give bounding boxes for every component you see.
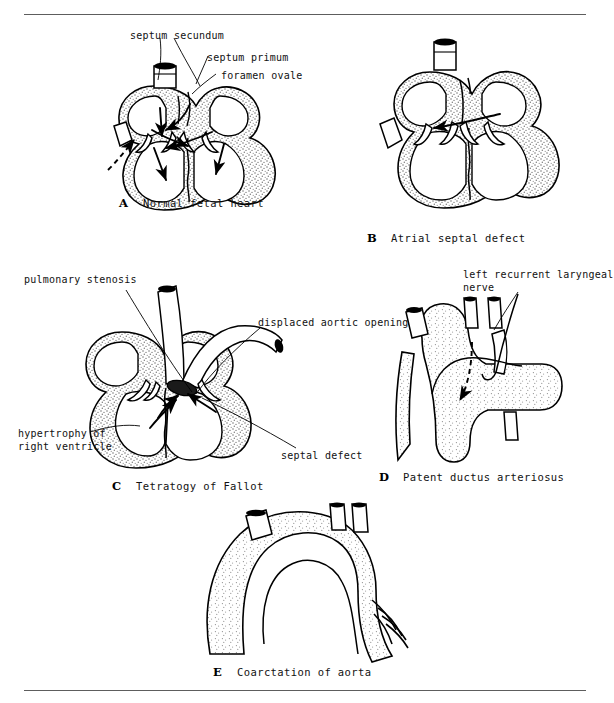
- label-hypertrophy-right-ventricle: hypertrophy of right ventricle: [18, 428, 112, 453]
- label-septum-primum: septum primum: [207, 52, 289, 65]
- label-septal-defect: septal defect: [281, 450, 363, 463]
- caption-a-title: Normal fetal heart: [143, 197, 264, 209]
- heart-diagram-b: [372, 32, 562, 212]
- caption-c-letter: C: [112, 479, 136, 493]
- caption-e-letter: E: [213, 665, 237, 679]
- caption-e-title: Coarctation of aorta: [237, 666, 371, 678]
- label-foramen-ovale: foramen ovale: [221, 70, 303, 83]
- caption-b-letter: B: [367, 231, 391, 245]
- caption-d: D Patent ductus arteriosus: [379, 470, 564, 484]
- aorta-diagram-e: [186, 504, 446, 664]
- label-pulmonary-stenosis: pulmonary stenosis: [24, 274, 137, 287]
- caption-a: A Normal fetal heart: [119, 196, 264, 210]
- label-septum-secundum: septum secundum: [130, 30, 224, 43]
- caption-c-title: Tetratogy of Fallot: [136, 480, 264, 492]
- caption-b: B Atrial septal defect: [367, 231, 525, 245]
- figure-b-atrial-septal-defect: [372, 32, 562, 212]
- caption-a-letter: A: [119, 196, 143, 210]
- label-displaced-aortic-opening: displaced aortic opening: [258, 317, 409, 330]
- panel-d-leaders: [440, 290, 560, 340]
- caption-d-letter: D: [379, 470, 403, 484]
- figure-e-coarctation-of-aorta: [186, 504, 446, 664]
- caption-b-title: Atrial septal defect: [391, 232, 525, 244]
- caption-c: C Tetratogy of Fallot: [112, 479, 264, 493]
- bottom-divider-rule: [24, 690, 586, 691]
- top-divider-rule: [24, 14, 586, 15]
- caption-d-title: Patent ductus arteriosus: [403, 471, 564, 483]
- label-left-recurrent-laryngeal-nerve: left recurrent laryngeal nerve: [463, 269, 614, 294]
- caption-e: E Coarctation of aorta: [213, 665, 371, 679]
